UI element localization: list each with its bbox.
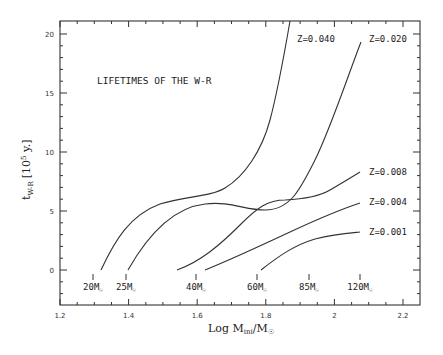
label-z001: Z=0.001 <box>369 227 407 237</box>
x-ticks <box>60 21 403 305</box>
svg-text:0: 0 <box>50 267 54 275</box>
chart-title: LIFETIMES OF THE W-R <box>97 75 212 86</box>
x-axis-label: Log Mini/M☉ <box>208 322 274 336</box>
svg-text:20: 20 <box>45 31 54 39</box>
svg-text:85M☉: 85M☉ <box>299 282 319 293</box>
svg-text:15: 15 <box>45 90 54 98</box>
svg-text:1.4: 1.4 <box>123 312 135 320</box>
curve-z008 <box>177 172 360 270</box>
label-z020: Z=0.020 <box>369 34 407 44</box>
x-tick-labels: 1.2 1.4 1.6 1.8 2 2.2 <box>54 312 408 320</box>
curve-z040 <box>101 21 290 270</box>
svg-text:2: 2 <box>332 312 336 320</box>
label-z008: Z=0.008 <box>369 167 407 177</box>
mass-markers: 20M☉ 25M☉ 40M☉ 60M☉ 85M☉ 120M☉ <box>83 274 373 293</box>
svg-text:60M☉: 60M☉ <box>247 282 267 293</box>
y-axis-label: tW-R[105 y.] <box>20 139 35 200</box>
svg-text:5: 5 <box>50 208 54 216</box>
svg-text:1.2: 1.2 <box>54 312 65 320</box>
label-z004: Z=0.004 <box>369 197 407 207</box>
svg-text:1.8: 1.8 <box>260 312 271 320</box>
svg-text:10: 10 <box>45 149 54 157</box>
plot-frame <box>60 21 420 305</box>
chart: 1.2 1.4 1.6 1.8 2 2.2 0 5 10 15 20 Log M… <box>0 0 443 355</box>
svg-text:25M☉: 25M☉ <box>116 282 136 293</box>
svg-text:120M☉: 120M☉ <box>347 282 373 293</box>
svg-text:1.6: 1.6 <box>192 312 204 320</box>
y-tick-labels: 0 5 10 15 20 <box>45 31 54 275</box>
svg-text:20M☉: 20M☉ <box>83 282 103 293</box>
svg-text:40M☉: 40M☉ <box>186 282 206 293</box>
svg-text:2.2: 2.2 <box>397 312 408 320</box>
curve-z001 <box>261 232 360 270</box>
label-z040: Z=0.040 <box>297 34 335 44</box>
